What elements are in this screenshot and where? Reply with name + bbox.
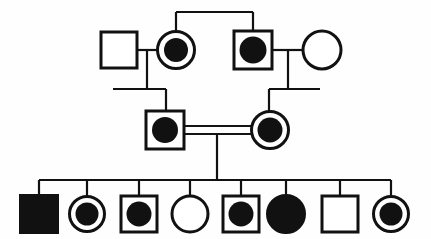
individual-II-1[interactable]: [146, 111, 184, 149]
pedigree-canvas: [0, 0, 431, 239]
mating-line-I3-I4: [272, 50, 303, 89]
symbol-inner-fill-dot: [164, 38, 188, 62]
individual-III-8[interactable]: [374, 197, 409, 232]
individual-I-2[interactable]: [158, 32, 195, 69]
individual-III-5[interactable]: [223, 196, 259, 232]
sibship-II-left-connector: [113, 89, 166, 111]
symbol-inner-fill-dot: [258, 118, 283, 143]
symbol-inner-fill-dot: [229, 202, 254, 227]
symbol-square-unfilled: [322, 196, 358, 232]
symbol-square-unfilled: [101, 32, 137, 68]
individual-I-4[interactable]: [303, 31, 341, 69]
pedigree-chart: [0, 0, 431, 239]
symbol-circle-filled: [267, 195, 305, 233]
individual-II-2[interactable]: [252, 112, 289, 149]
individual-III-1[interactable]: [20, 195, 58, 233]
individual-III-3[interactable]: [121, 196, 157, 232]
symbol-inner-fill-dot: [240, 37, 267, 64]
sibship-top-connector: [176, 12, 253, 31]
mating-line-I1-I2: [137, 50, 157, 89]
individual-III-4[interactable]: [172, 196, 208, 232]
individual-III-7[interactable]: [322, 196, 358, 232]
symbol-inner-fill-dot: [152, 117, 178, 143]
individual-I-1[interactable]: [101, 32, 137, 68]
symbol-inner-fill-dot: [76, 203, 99, 226]
sibship-II-right-connector: [269, 89, 320, 111]
symbol-circle-unfilled: [303, 31, 341, 69]
individual-III-2[interactable]: [70, 197, 105, 232]
sibship-III-connector: [39, 180, 391, 196]
symbol-inner-fill-dot: [380, 203, 403, 226]
consanguineous-mating-line: [184, 126, 251, 180]
symbol-inner-fill-dot: [127, 202, 152, 227]
symbol-circle-unfilled: [172, 196, 208, 232]
symbol-square-filled: [20, 195, 58, 233]
individual-III-6[interactable]: [267, 195, 305, 233]
individual-I-3[interactable]: [234, 31, 272, 69]
